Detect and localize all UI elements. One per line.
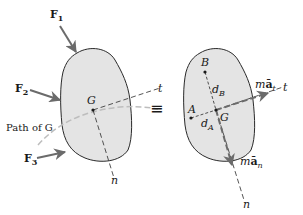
normal-inertia-label: mān xyxy=(240,155,263,170)
force-f2-label: F2 xyxy=(15,82,28,97)
right-g-label: G xyxy=(220,111,229,124)
force-f1-label: F1 xyxy=(50,8,63,23)
point-a-label: A xyxy=(187,103,196,116)
point-a xyxy=(189,116,192,119)
point-b xyxy=(203,70,206,73)
equivalence-symbol: ≡ xyxy=(150,99,163,118)
right-center-g-point xyxy=(214,108,217,111)
right-n-label: n xyxy=(243,198,250,211)
force-f3-label: F3 xyxy=(24,152,38,167)
tangential-inertia-label: māt xyxy=(255,78,277,93)
force-f1-arrow xyxy=(60,26,76,52)
left-center-g-point xyxy=(91,108,94,111)
left-t-label: t xyxy=(158,82,163,95)
left-rigid-body xyxy=(61,49,132,162)
right-t-label: t xyxy=(283,81,288,94)
force-f3-arrow xyxy=(37,152,65,158)
point-b-label: B xyxy=(200,56,209,69)
path-of-g-label: Path of G xyxy=(6,122,53,133)
force-f2-arrow xyxy=(30,90,60,100)
left-g-label: G xyxy=(87,94,96,107)
left-n-label: n xyxy=(111,174,118,187)
kinetics-diagram: F1 F2 F3 G Path of G t n ≡ B A G dB dA m… xyxy=(0,0,303,215)
